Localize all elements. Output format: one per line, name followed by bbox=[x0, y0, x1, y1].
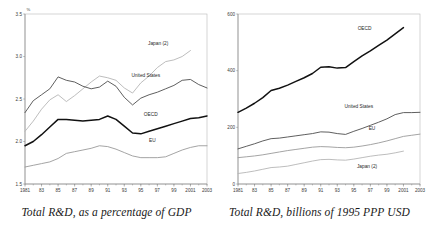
series-line-united-states bbox=[238, 112, 420, 149]
series-line-eu bbox=[238, 134, 420, 158]
series-label-eu: EU bbox=[369, 126, 376, 131]
y-tick-label: 600 bbox=[227, 12, 235, 17]
y-tick-label: 200 bbox=[227, 125, 235, 130]
x-tick-label: 95 bbox=[138, 188, 144, 193]
series-line-oecd bbox=[238, 28, 403, 113]
x-tick-label: 85 bbox=[269, 188, 275, 193]
x-tick-label: 89 bbox=[89, 188, 95, 193]
series-line-eu bbox=[25, 146, 207, 167]
y-tick-label: 3.0 bbox=[16, 54, 23, 59]
x-tick-label: 93 bbox=[335, 188, 341, 193]
series-label-united-states: United States bbox=[131, 73, 160, 78]
series-line-japan-2 bbox=[25, 51, 190, 132]
figure-root: 1.52.02.53.03.51981838587899193959799200… bbox=[0, 0, 426, 233]
series-label-oecd: OECD bbox=[144, 112, 158, 117]
y-tick-label: 400 bbox=[227, 68, 235, 73]
chart-panel-rnd-percent-gdp: 1.52.02.53.03.51981838587899193959799200… bbox=[0, 0, 213, 233]
x-tick-label: 93 bbox=[122, 188, 128, 193]
x-tick-label: 91 bbox=[318, 188, 324, 193]
series-label-oecd: OECD bbox=[358, 26, 372, 31]
y-tick-label: 0 bbox=[232, 182, 235, 187]
y-tick-label: 2.5 bbox=[16, 97, 23, 102]
plot-frame bbox=[25, 14, 207, 184]
series-line-united-states bbox=[25, 77, 207, 113]
series-label-eu: EU bbox=[149, 138, 156, 143]
x-tick-label: 97 bbox=[155, 188, 161, 193]
x-tick-label: 87 bbox=[72, 188, 78, 193]
x-tick-label: 2001 bbox=[398, 188, 409, 193]
y-tick-label: 2.0 bbox=[16, 139, 23, 144]
chart-panel-rnd-billions-ppp: 0200400600198183858789919395979920012003… bbox=[213, 0, 426, 233]
chart-caption-left: Total R&D, as a percentage of GDP bbox=[0, 206, 213, 218]
plot-frame bbox=[238, 14, 420, 184]
chart-caption-right: Total R&D, billions of 1995 PPP USD bbox=[213, 206, 426, 218]
series-label-japan-2: Japan (2) bbox=[148, 41, 169, 46]
x-tick-label: 97 bbox=[368, 188, 374, 193]
x-tick-label: 91 bbox=[105, 188, 111, 193]
x-tick-label: 85 bbox=[56, 188, 62, 193]
x-tick-label: 2003 bbox=[202, 188, 213, 193]
line-chart-rnd-billions-ppp: 0200400600198183858789919395979920012003… bbox=[213, 2, 426, 205]
x-tick-label: 83 bbox=[252, 188, 258, 193]
x-tick-label: 83 bbox=[39, 188, 45, 193]
series-label-united-states: United States bbox=[344, 104, 373, 109]
x-tick-label: 99 bbox=[384, 188, 390, 193]
x-tick-label: 1981 bbox=[233, 188, 244, 193]
x-tick-label: 2001 bbox=[185, 188, 196, 193]
x-tick-label: 1981 bbox=[20, 188, 31, 193]
series-label-japan-2: Japan (2) bbox=[357, 164, 378, 169]
y-tick-label: 3.5 bbox=[16, 12, 23, 17]
series-line-oecd bbox=[25, 116, 207, 146]
x-tick-label: 89 bbox=[302, 188, 308, 193]
y-axis-unit-label: % bbox=[27, 7, 31, 12]
x-tick-label: 99 bbox=[171, 188, 177, 193]
line-chart-rnd-percent-gdp: 1.52.02.53.03.51981838587899193959799200… bbox=[0, 2, 213, 205]
x-tick-label: 2003 bbox=[415, 188, 426, 193]
y-tick-label: 1.5 bbox=[16, 182, 23, 187]
x-tick-label: 87 bbox=[285, 188, 291, 193]
x-tick-label: 95 bbox=[351, 188, 357, 193]
